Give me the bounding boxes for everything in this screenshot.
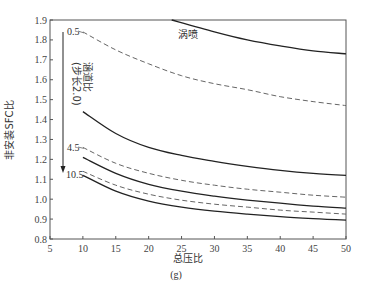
turbojet-label: 涡喷 — [178, 29, 198, 40]
y-tick-label: 1.0 — [35, 194, 48, 205]
sfc-ratio-chart: 5101520253035404550 0.80.91.01.11.21.31.… — [0, 0, 371, 304]
y-tick-label: 1.1 — [35, 174, 48, 185]
x-tick-label: 50 — [341, 243, 351, 254]
x-tick-label: 15 — [111, 243, 121, 254]
plot-frame — [50, 20, 346, 239]
bpr-label-0-5: 0.5 — [67, 26, 80, 37]
bpr-arrow-label-2: (步长2.0) — [71, 62, 82, 106]
series-line — [83, 175, 346, 220]
y-tick-label: 1.5 — [35, 94, 48, 105]
x-tick-label: 45 — [308, 243, 318, 254]
y-tick-label: 1.3 — [35, 134, 48, 145]
y-tick-label: 1.4 — [35, 114, 48, 125]
y-tick-label: 1.9 — [35, 15, 48, 26]
y-tick-label: 0.8 — [35, 234, 48, 245]
bpr-label-4-5: 4.5 — [67, 142, 80, 153]
bpr-label-10-5: 10.5 — [66, 169, 84, 180]
y-tick-label: 1.2 — [35, 154, 48, 165]
series-lines — [78, 20, 346, 220]
series-line — [83, 157, 346, 208]
bpr-direction-arrow — [61, 32, 66, 173]
series-line — [83, 171, 346, 214]
y-tick-label: 1.7 — [35, 54, 48, 65]
y-tick-label: 0.9 — [35, 214, 48, 225]
plot-border — [50, 20, 346, 239]
y-tick-label: 1.6 — [35, 74, 48, 85]
figure-caption: (g) — [170, 269, 182, 281]
y-axis-title: 非安装SFC比 — [3, 100, 15, 159]
bpr-arrow-label-1: 涵道比 — [82, 62, 94, 92]
x-tick-label: 40 — [275, 243, 285, 254]
x-tick-label: 30 — [209, 243, 219, 254]
x-axis-title: 总压比 — [173, 252, 203, 264]
x-tick-label: 20 — [144, 243, 154, 254]
x-tick-label: 35 — [242, 243, 252, 254]
x-tick-label: 5 — [48, 243, 53, 254]
x-tick-label: 10 — [78, 243, 88, 254]
y-tick-label: 1.8 — [35, 34, 48, 45]
series-line — [83, 32, 346, 106]
